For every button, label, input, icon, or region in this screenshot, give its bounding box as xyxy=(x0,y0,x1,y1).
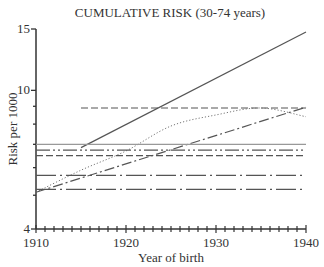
y-tick-label: 4 xyxy=(24,221,31,236)
series-lines xyxy=(36,32,306,192)
x-tick-label: 1910 xyxy=(23,235,49,250)
x-tick-label: 1940 xyxy=(293,235,319,250)
x-axis-label: Year of birth xyxy=(138,250,204,265)
x-tick-label: 1930 xyxy=(203,235,229,250)
series-line xyxy=(81,32,306,148)
y-axis-label: Risk per 1000 xyxy=(5,93,20,166)
chart-title: CUMULATIVE RISK (30-74 years) xyxy=(75,5,265,20)
x-tick-label: 1920 xyxy=(113,235,139,250)
y-tick-label: 15 xyxy=(17,21,30,36)
cumulative-risk-chart: CUMULATIVE RISK (30-74 years) 41015 1910… xyxy=(0,0,324,267)
